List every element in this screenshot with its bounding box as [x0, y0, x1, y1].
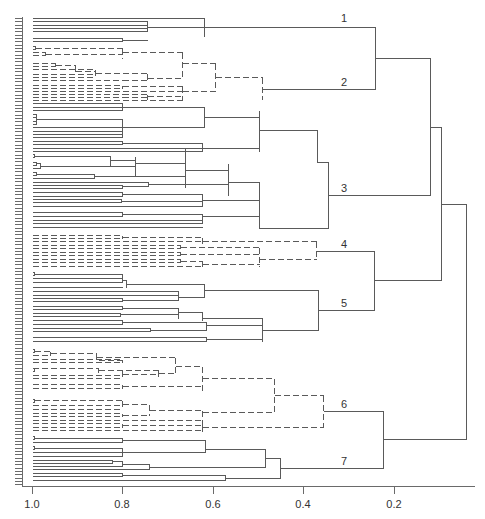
x-tick-label-0-8: 0.8 — [114, 498, 129, 510]
cluster-label-2: 2 — [341, 76, 347, 88]
cluster-label-3: 3 — [341, 182, 347, 194]
x-tick-label-1-0: 1.0 — [24, 498, 39, 510]
cluster-label-7: 7 — [341, 455, 347, 467]
cluster-label-1: 1 — [341, 12, 347, 24]
x-tick-label-0-4: 0.4 — [295, 498, 310, 510]
x-tick-label-0-6: 0.6 — [205, 498, 220, 510]
x-tick-label-0-2: 0.2 — [386, 498, 401, 510]
cluster-label-6: 6 — [341, 398, 347, 410]
cluster-label-4: 4 — [341, 238, 347, 250]
dendrogram-branches — [33, 19, 467, 481]
leaf-tick-marks — [15, 19, 22, 485]
cluster-label-5: 5 — [341, 297, 347, 309]
dendrogram-chart: 1.0 0.8 0.6 0.4 0.2 1 2 3 4 5 6 7 — [0, 0, 485, 519]
